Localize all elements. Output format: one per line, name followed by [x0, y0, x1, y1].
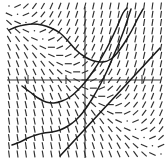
field-dash — [73, 62, 79, 65]
field-dash — [16, 60, 18, 67]
field-dash — [151, 85, 153, 92]
field-dash — [143, 93, 146, 99]
field-dash — [101, 36, 103, 43]
field-dash — [117, 69, 120, 75]
field-dash — [40, 46, 46, 49]
field-dash — [125, 143, 129, 149]
field-dash — [109, 151, 111, 158]
field-dash — [152, 35, 153, 42]
field-dash — [135, 27, 136, 34]
field-dash — [118, 11, 119, 18]
field-dot — [135, 128, 137, 130]
field-dash — [41, 69, 44, 75]
field-dash — [109, 69, 112, 75]
field-dash — [160, 44, 161, 51]
field-dash — [59, 109, 61, 116]
field-dash — [92, 52, 95, 58]
field-dash — [65, 70, 71, 73]
field-dash — [124, 128, 130, 131]
field-dash — [101, 19, 103, 26]
field-dot — [34, 30, 36, 32]
field-dash — [160, 110, 163, 116]
field-dash — [133, 110, 138, 115]
field-dash — [108, 126, 112, 132]
field-dash — [149, 153, 155, 156]
field-dash — [57, 46, 63, 49]
field-dash — [160, 35, 161, 42]
field-dash — [50, 11, 53, 17]
field-dash — [160, 101, 162, 108]
field-dash — [23, 37, 28, 42]
field-dash — [67, 134, 69, 141]
field-dash — [8, 60, 10, 67]
field-dash — [134, 85, 137, 91]
field-dash — [23, 29, 29, 32]
field-dash — [76, 11, 78, 18]
field-dash — [100, 44, 102, 51]
field-dash — [135, 36, 136, 43]
field-dash — [65, 54, 71, 57]
field-dash — [50, 85, 53, 91]
field-dash — [34, 101, 36, 108]
field-dash — [125, 151, 128, 157]
field-dash — [8, 44, 11, 50]
field-dash — [57, 62, 63, 65]
field-dash — [23, 13, 29, 16]
field-dash — [92, 44, 95, 50]
field-dash — [101, 11, 103, 18]
field-dash — [17, 118, 18, 125]
field-dash — [143, 68, 145, 75]
field-dash — [92, 134, 94, 141]
field-dash — [91, 102, 96, 107]
field-dash — [33, 61, 36, 67]
field-dash — [49, 61, 54, 66]
field-dash — [117, 135, 121, 141]
field-dash — [9, 134, 10, 141]
field-dash — [25, 109, 26, 116]
field-dash — [25, 142, 26, 149]
field-dash — [32, 53, 36, 59]
field-dash — [8, 68, 10, 75]
field-dot — [126, 120, 128, 122]
field-dash — [93, 3, 95, 10]
field-dash — [152, 68, 154, 75]
field-dash — [34, 151, 35, 158]
field-dash — [42, 101, 44, 108]
field-dash — [151, 101, 154, 107]
field-dash — [58, 11, 61, 17]
field-dash — [110, 19, 112, 26]
field-dash — [40, 29, 46, 32]
field-dash — [151, 110, 154, 116]
field-dash — [125, 85, 128, 91]
field-dash — [42, 85, 44, 92]
field-dash — [109, 134, 112, 140]
field-dash — [150, 127, 155, 132]
plot-canvas — [0, 0, 167, 164]
field-dash — [59, 134, 61, 141]
field-dash — [134, 93, 137, 99]
field-dash — [141, 152, 146, 157]
field-dash — [74, 53, 79, 58]
field-dash — [40, 53, 45, 58]
field-dash — [160, 85, 162, 92]
field-dash — [59, 142, 60, 149]
field-dash — [41, 61, 45, 67]
field-dash — [41, 3, 44, 9]
field-dash — [15, 28, 20, 33]
field-dash — [115, 103, 121, 106]
field-dash — [42, 126, 43, 133]
field-dash — [142, 102, 145, 108]
field-dash — [51, 118, 53, 125]
field-dash — [92, 142, 94, 149]
field-dash — [24, 61, 27, 67]
field-dash — [8, 126, 9, 133]
field-dash — [42, 109, 44, 116]
field-dot — [17, 14, 19, 16]
field-dash — [161, 11, 162, 18]
field-dash — [133, 143, 138, 148]
field-dash — [108, 119, 113, 124]
field-dash — [67, 11, 69, 18]
field-dash — [31, 38, 37, 41]
field-dash — [152, 44, 153, 51]
field-dash — [42, 151, 43, 158]
